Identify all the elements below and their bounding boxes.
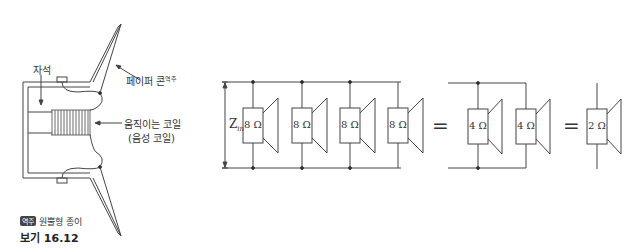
coil-label-line1: 움직이는 코일 [124, 116, 181, 131]
speaker-magnet-housing [23, 77, 90, 183]
magnet-label: 자석 [33, 62, 51, 77]
figure-caption: 보기 16.12 [20, 229, 79, 245]
paper-cone [90, 24, 121, 236]
pair-impedance-2: 4 Ω [515, 120, 537, 131]
footnote: 역주원뿔형 종이 [20, 215, 82, 228]
speaker-impedance-2: 8 Ω [291, 119, 313, 130]
footnote-badge: 역주 [20, 216, 36, 226]
diagram-canvas [0, 0, 643, 250]
cone-label-note: 역주 [165, 75, 177, 82]
magnet-arrow [39, 75, 43, 105]
footnote-text: 원뿔형 종이 [39, 217, 82, 227]
equals-sign-2: = [563, 113, 580, 137]
single-impedance: 2 Ω [586, 120, 608, 131]
equals-sign-1: = [432, 113, 449, 137]
cone-label: 페이퍼 콘역주 [126, 73, 177, 88]
cone-label-text: 페이퍼 콘 [126, 76, 165, 87]
speaker-impedance-3: 8 Ω [339, 119, 361, 130]
coil-label-line2: (음성 코일) [128, 130, 175, 145]
coil-arrow [95, 121, 122, 125]
voice-coil [51, 110, 91, 135]
speaker-impedance-1: 8 Ω [242, 119, 264, 130]
speaker-impedance-4: 8 Ω [387, 119, 409, 130]
pair-impedance-1: 4 Ω [467, 120, 489, 131]
